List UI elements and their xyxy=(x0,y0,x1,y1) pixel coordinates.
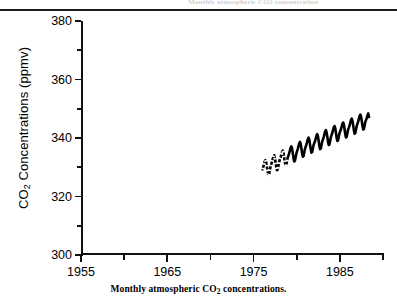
header-rule xyxy=(0,9,397,11)
x-tick-major xyxy=(80,255,82,262)
plot-area: 300320340360380 1955196519751985 xyxy=(81,21,383,255)
figure-container: Monthly atmospheric CO2 concentrations C… xyxy=(0,0,397,304)
y-axis-title-suffix: Concentrations (ppmv) xyxy=(16,47,31,184)
caption-prefix: Monthly atmospheric CO xyxy=(110,284,216,294)
x-tick-major xyxy=(166,255,168,262)
x-tick-label: 1955 xyxy=(67,265,95,279)
x-tick-label: 1965 xyxy=(153,265,181,279)
x-tick-label: 1975 xyxy=(240,265,268,279)
y-tick-label: 300 xyxy=(51,248,72,262)
y-tick-label: 380 xyxy=(51,14,72,28)
y-tick-label: 360 xyxy=(51,73,72,87)
x-tick-minor xyxy=(296,255,298,260)
y-axis-title: CO2 Concentrations (ppmv) xyxy=(16,28,32,228)
y-axis-title-subscript: 2 xyxy=(22,184,32,189)
x-tick-major xyxy=(339,255,341,262)
x-tick-label: 1985 xyxy=(326,265,354,279)
x-tick-minor xyxy=(382,255,384,260)
cropped-header-text: Monthly atmospheric CO2 concentrations xyxy=(188,0,318,6)
x-tick-major xyxy=(253,255,255,262)
y-axis-title-prefix: CO xyxy=(16,189,31,209)
caption-suffix: concentrations. xyxy=(221,284,287,294)
y-tick-label: 320 xyxy=(51,190,72,204)
x-tick-minor xyxy=(123,255,125,260)
data-series-co2 xyxy=(81,21,383,255)
x-tick-minor xyxy=(210,255,212,260)
series-line xyxy=(263,113,369,174)
figure-caption: Monthly atmospheric CO2 concentrations. xyxy=(0,284,397,296)
y-tick-label: 340 xyxy=(51,131,72,145)
